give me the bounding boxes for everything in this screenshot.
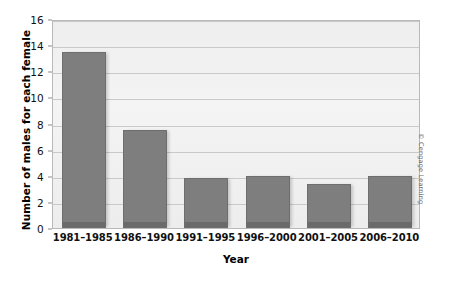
bar-chart-figure: 0246810121416 Number of males for each f…: [0, 0, 471, 282]
x-axis: 1981–19851986–19901991–19951996–20002001…: [52, 232, 420, 250]
bar: [307, 184, 351, 228]
bar: [368, 176, 412, 228]
y-tick-mark: [48, 124, 52, 125]
x-tick-label: 1981–1985: [52, 232, 113, 243]
x-tick-label: 1986–1990: [113, 232, 174, 243]
bar: [184, 178, 228, 228]
y-tick-label: 16: [30, 14, 44, 26]
y-tick-label: 2: [37, 197, 44, 209]
y-tick-label: 4: [37, 171, 44, 183]
plot-area: [52, 20, 420, 229]
bar: [62, 52, 106, 228]
y-tick-mark: [48, 150, 52, 151]
y-tick-label: 8: [37, 119, 44, 131]
x-tick-label: 2001–2005: [297, 232, 358, 243]
y-tick-mark: [48, 72, 52, 73]
x-tick-label: 2006–2010: [359, 232, 420, 243]
y-tick-label: 6: [37, 145, 44, 157]
y-tick-mark: [48, 176, 52, 177]
y-tick-label: 12: [30, 66, 44, 78]
y-tick-mark: [48, 229, 52, 230]
y-tick-mark: [48, 98, 52, 99]
bar: [246, 176, 290, 228]
y-tick-mark: [48, 202, 52, 203]
bar-series: [53, 21, 419, 228]
y-tick-label: 0: [37, 223, 44, 235]
y-tick-label: 14: [30, 40, 44, 52]
y-axis-title: Number of males for each female: [20, 20, 32, 240]
x-axis-title: Year: [52, 253, 420, 265]
bar: [123, 130, 167, 228]
y-tick-mark: [48, 46, 52, 47]
copyright-credit: © Cengage Learning: [417, 133, 425, 243]
x-tick-label: 1996–2000: [236, 232, 297, 243]
x-tick-label: 1991–1995: [175, 232, 236, 243]
y-tick-mark: [48, 20, 52, 21]
y-tick-label: 10: [30, 92, 44, 104]
